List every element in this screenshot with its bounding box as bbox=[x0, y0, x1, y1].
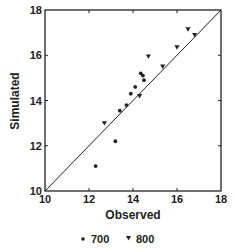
x-tick-label: 18 bbox=[215, 193, 227, 205]
triangle-marker bbox=[185, 27, 190, 31]
dot-marker bbox=[94, 164, 98, 168]
y-axis-title: Simulated bbox=[8, 72, 22, 129]
y-tick-label: 16 bbox=[30, 49, 42, 61]
x-axis-tick-labels: 1012141618 bbox=[39, 193, 227, 205]
x-axis-title: Observed bbox=[105, 208, 160, 222]
triangle-down-marker-icon bbox=[126, 236, 131, 241]
legend-item-700: 700 bbox=[81, 233, 109, 245]
dot-marker bbox=[139, 71, 143, 75]
x-tick-label: 14 bbox=[127, 193, 140, 205]
legend-item-800: 800 bbox=[126, 233, 154, 245]
dot-marker bbox=[118, 109, 122, 113]
scatter-chart: 1012141618 1012141618 Observed Simulated… bbox=[0, 0, 236, 252]
x-tick-label: 12 bbox=[83, 193, 95, 205]
x-tick-label: 16 bbox=[171, 193, 183, 205]
y-tick-label: 12 bbox=[30, 140, 42, 152]
dot-marker bbox=[133, 85, 137, 89]
data-points bbox=[94, 27, 198, 168]
dot-marker bbox=[142, 78, 146, 82]
legend: 700 800 bbox=[81, 233, 154, 245]
triangle-marker bbox=[174, 45, 179, 49]
series-800 bbox=[102, 27, 197, 125]
dot-marker-icon bbox=[81, 237, 85, 241]
legend-label-700: 700 bbox=[91, 233, 109, 245]
dot-marker bbox=[129, 92, 133, 96]
y-tick-label: 14 bbox=[30, 95, 43, 107]
series-700 bbox=[94, 71, 146, 168]
legend-label-800: 800 bbox=[136, 233, 154, 245]
y-tick-label: 18 bbox=[30, 4, 42, 16]
y-axis-tick-labels: 1012141618 bbox=[30, 4, 43, 197]
dot-marker bbox=[125, 103, 129, 107]
triangle-marker bbox=[146, 54, 151, 58]
triangle-marker bbox=[102, 121, 107, 125]
y-tick-label: 10 bbox=[30, 185, 42, 197]
dot-marker bbox=[114, 139, 118, 143]
